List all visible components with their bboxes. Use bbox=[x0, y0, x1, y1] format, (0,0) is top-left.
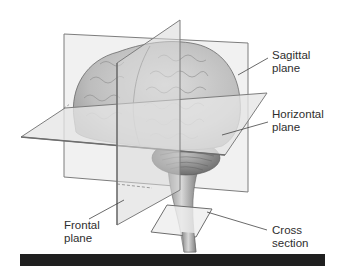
label-line: Cross bbox=[272, 224, 308, 237]
label-sagittal-plane: Sagittal plane bbox=[272, 49, 310, 74]
label-line: Frontal bbox=[64, 219, 100, 232]
cross-section-plane bbox=[151, 205, 212, 237]
label-frontal-plane: Frontal plane bbox=[64, 219, 100, 244]
label-line: plane bbox=[272, 62, 310, 75]
bottom-bar bbox=[20, 254, 325, 266]
label-cross-section: Cross section bbox=[272, 224, 308, 249]
label-line: section bbox=[272, 237, 308, 250]
label-line: plane bbox=[64, 232, 100, 245]
label-line: Sagittal bbox=[272, 49, 310, 62]
label-horizontal-plane: Horizontal plane bbox=[272, 108, 324, 133]
label-line: Horizontal bbox=[272, 108, 324, 121]
cross-leader bbox=[207, 212, 267, 230]
label-line: plane bbox=[272, 121, 324, 134]
